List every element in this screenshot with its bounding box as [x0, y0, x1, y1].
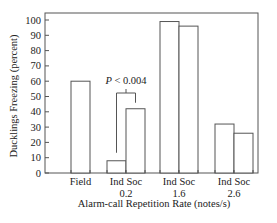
bar-2.6-soc	[234, 133, 253, 173]
y-tick-label: 70	[31, 60, 42, 71]
y-tick-label: 30	[31, 122, 42, 133]
y-tick-label: 100	[25, 15, 41, 26]
bar-0.2-ind	[107, 161, 126, 173]
y-tick-label: 20	[31, 137, 42, 148]
x-category-labels: FieldInd Soc0.2Ind Soc1.6Ind Soc2.6	[70, 176, 251, 199]
y-tick-label: 40	[31, 106, 42, 117]
p-value-annotation: P < 0.004	[104, 75, 147, 86]
y-tick-label: 80	[31, 45, 42, 56]
bars	[71, 22, 253, 173]
y-axis-title: Ducklings Freezing (percent)	[8, 34, 20, 158]
y-tick-label: 10	[31, 152, 42, 163]
y-tick-label: 90	[31, 30, 42, 41]
x-category-label: Ind Soc	[218, 176, 251, 187]
y-tick-label: 60	[31, 76, 42, 87]
x-category-label: Ind Soc	[163, 176, 196, 187]
bar-0.2-soc	[126, 109, 145, 173]
x-axis-title: Alarm-call Repetition Rate (notes/s)	[78, 198, 231, 210]
y-tick-label: 0	[36, 168, 41, 179]
bar-1.6-soc	[179, 26, 198, 173]
x-category-label: Field	[70, 176, 92, 187]
y-tick-label: 50	[31, 91, 42, 102]
x-category-label: Ind Soc	[110, 176, 143, 187]
bar-1.6-ind	[160, 22, 179, 173]
bar-2.6-ind	[215, 124, 234, 173]
bar-field-field	[71, 81, 90, 173]
bar-chart: 0102030405060708090100 FieldInd Soc0.2In…	[0, 0, 277, 223]
